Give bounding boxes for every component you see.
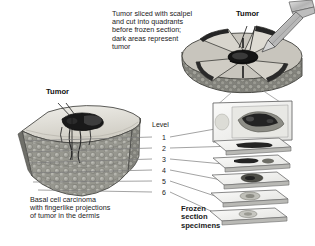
level-number-5: 5 (158, 178, 166, 185)
tumor-label-right: Tumor (236, 9, 259, 18)
slide-level-4 (212, 172, 289, 189)
medical-illustration-figure: Tumor sliced with scalpel and cut into q… (0, 0, 315, 246)
slide-level-5 (211, 190, 288, 207)
slide-level-6 (210, 208, 287, 225)
slide-magnified (213, 101, 292, 142)
slide-level-3 (213, 155, 290, 172)
level-number-6: 6 (158, 189, 166, 196)
frozen-section-specimens-caption: Frozen section specimens (181, 205, 221, 230)
frozen-section-slide-stack (210, 101, 292, 225)
slide-level-2 (214, 138, 291, 155)
tumor-label-left: Tumor (46, 87, 69, 96)
level-number-2: 2 (158, 145, 166, 152)
bottom-caption: Basal cell carcinoma with fingerlike pro… (30, 196, 150, 221)
level-number-4: 4 (158, 167, 166, 174)
level-number-3: 3 (158, 156, 166, 163)
top-caption: Tumor sliced with scalpel and cut into q… (112, 10, 204, 51)
level-number-1: 1 (158, 134, 166, 141)
level-heading: Level (152, 121, 169, 128)
